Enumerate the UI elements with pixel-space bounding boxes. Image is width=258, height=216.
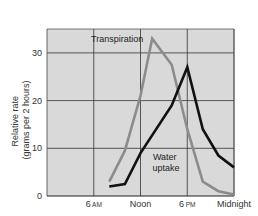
y-axis-ticks: 0102030: [32, 48, 42, 201]
water-uptake-annotation: Water uptake: [152, 152, 179, 173]
water-uptake-annotation-line-1: Water: [153, 152, 177, 162]
y-tick-label: 0: [37, 191, 42, 201]
y-axis-label: Relative rate (grams per 2 hours): [10, 80, 31, 159]
x-tick-label: 6 PM: [179, 199, 196, 209]
y-axis-label-line-1: Relative rate: [10, 96, 20, 147]
y-tick-label: 10: [32, 143, 42, 153]
line-chart: 0102030 6 AMNoon6 PMMidnight Relative ra…: [0, 0, 258, 216]
y-axis-label-line-2: (grams per 2 hours): [21, 80, 31, 159]
x-axis-ticks: 6 AMNoon6 PMMidnight: [86, 199, 252, 209]
water-uptake-annotation-line-2: uptake: [152, 163, 179, 173]
y-tick-label: 20: [32, 96, 42, 106]
transpiration-annotation: Transpiration: [91, 34, 143, 44]
x-tick-label: 6 AM: [86, 199, 102, 209]
x-tick-label: Noon: [130, 199, 152, 209]
y-tick-label: 30: [32, 48, 42, 58]
x-tick-label: Midnight: [217, 199, 252, 209]
